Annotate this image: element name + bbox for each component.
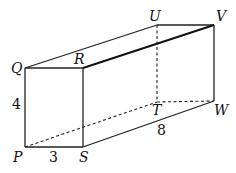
edge-QU	[25, 25, 157, 68]
vertex-label-Q: Q	[11, 60, 23, 76]
hidden-edge-PT	[25, 102, 157, 147]
vertex-label-P: P	[12, 149, 23, 165]
hidden-edge-TW	[157, 101, 214, 102]
cuboid-diagram: Q R U V P S T W 4 3 8	[0, 0, 236, 173]
vertex-label-U: U	[149, 8, 162, 24]
vertex-label-V: V	[216, 8, 228, 24]
edge-SW	[83, 101, 214, 147]
vertex-label-W: W	[214, 102, 230, 118]
dimension-label-SW: 8	[157, 122, 166, 138]
vertex-label-T: T	[152, 102, 163, 118]
vertex-label-S: S	[79, 149, 89, 165]
edge-RV	[83, 25, 214, 68]
vertex-label-R: R	[73, 51, 85, 67]
dimension-label-PS: 3	[49, 149, 58, 165]
dimension-label-PQ: 4	[12, 96, 21, 112]
